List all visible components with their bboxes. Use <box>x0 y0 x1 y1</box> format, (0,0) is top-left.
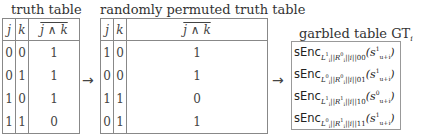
key-subscript: L1i||R1i||i||10 <box>321 98 366 106</box>
col-header-nand: j ∧ k <box>127 19 268 41</box>
garbled-title-sub: i <box>410 34 413 43</box>
cell-value: 1 <box>127 41 268 65</box>
cell-value: 1 <box>127 110 268 134</box>
garbled-title-text: garbled table GT <box>299 26 410 41</box>
cell-k: 1 <box>16 64 29 87</box>
permuted-truth-table: j k j ∧ k 1 0 1 0 0 1 1 1 0 0 1 1 <box>100 18 268 134</box>
table-row: 0 1 1 <box>3 64 80 87</box>
arrow-right-icon: → <box>82 72 94 88</box>
col-header-nand: j ∧ k <box>29 19 80 41</box>
table-header-row: j k j ∧ k <box>101 19 268 41</box>
arrow-right-icon: → <box>272 72 284 88</box>
cell-j: 0 <box>3 41 16 65</box>
table-header-row: j k j ∧ k <box>3 19 80 41</box>
cell-value: 1 <box>29 41 80 65</box>
table-row: 1 0 1 <box>3 87 80 110</box>
key-subscript: L1i||R0i||i||00 <box>321 54 366 62</box>
argument: (s1u+i) <box>366 46 395 59</box>
col-header-j: j <box>3 19 16 41</box>
cell-k: 0 <box>114 64 127 87</box>
cell-j: 1 <box>101 87 114 110</box>
cell-value: 1 <box>29 64 80 87</box>
table-row: 0 0 1 <box>101 64 268 87</box>
col-header-k: k <box>114 19 127 41</box>
key-subscript: L0i||R1i||i||11 <box>321 120 366 128</box>
func-name: sEnc <box>294 45 321 59</box>
cell-value: 1 <box>127 64 268 87</box>
func-name: sEnc <box>294 67 321 81</box>
cell-k: 1 <box>114 87 127 110</box>
argument: (s1u+i) <box>366 112 395 125</box>
cell-k: 0 <box>114 41 127 65</box>
cell-j: 1 <box>3 87 16 110</box>
argument: (s0u+i) <box>366 90 395 103</box>
garbled-row: sEncL1i||R1i||i||10(s0u+i) <box>294 89 395 107</box>
cell-value: 1 <box>29 87 80 110</box>
cell-value: 0 <box>127 87 268 110</box>
table-row: 1 1 0 <box>101 87 268 110</box>
col-header-j: j <box>101 19 114 41</box>
func-name: sEnc <box>294 111 321 125</box>
cell-j: 0 <box>101 64 114 87</box>
cell-j: 0 <box>3 64 16 87</box>
table-row: 1 0 1 <box>101 41 268 65</box>
table-row: 0 0 1 <box>3 41 80 65</box>
permuted-table-title: randomly permuted truth table <box>100 2 305 17</box>
table-row: 0 1 1 <box>101 110 268 134</box>
key-subscript: L0i||R0i||i||01 <box>321 76 366 84</box>
cell-j: 1 <box>3 110 16 134</box>
cell-k: 0 <box>16 87 29 110</box>
argument: (s1u+i) <box>366 68 395 81</box>
cell-value: 0 <box>29 110 80 134</box>
cell-j: 1 <box>101 41 114 65</box>
func-name: sEnc <box>294 89 321 103</box>
garbled-row: sEncL0i||R1i||i||11(s1u+i) <box>294 111 395 129</box>
cell-j: 0 <box>101 110 114 134</box>
col-header-k: k <box>16 19 29 41</box>
garbled-table: sEncL1i||R0i||i||00(s1u+i) sEncL0i||R0i|… <box>291 41 401 130</box>
table-row: 1 1 0 <box>3 110 80 134</box>
garbled-row: sEncL0i||R0i||i||01(s1u+i) <box>294 67 395 85</box>
truth-table-title: truth table <box>11 2 82 17</box>
cell-k: 0 <box>16 41 29 65</box>
cell-k: 1 <box>16 110 29 134</box>
garbled-row: sEncL1i||R0i||i||00(s1u+i) <box>294 45 395 63</box>
cell-k: 1 <box>114 110 127 134</box>
truth-table: j k j ∧ k 0 0 1 0 1 1 1 0 1 1 1 0 <box>2 18 80 134</box>
